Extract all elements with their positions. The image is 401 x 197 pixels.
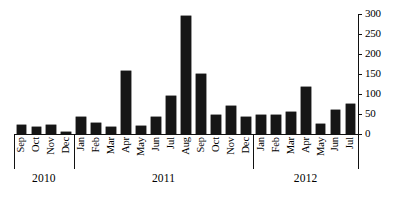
x-axis-tick-label: Sep xyxy=(16,137,27,152)
bar-slot xyxy=(313,14,328,134)
bar[interactable] xyxy=(121,71,131,134)
bar[interactable] xyxy=(136,126,146,134)
bar[interactable] xyxy=(106,127,116,134)
x-axis-tick-label: Jan xyxy=(76,137,87,151)
bar-slot xyxy=(238,14,253,134)
bar[interactable] xyxy=(91,123,101,134)
bar-slot xyxy=(119,14,134,134)
x-axis-tick-label: Apr xyxy=(300,137,311,153)
bar-slot xyxy=(14,14,29,134)
bar[interactable] xyxy=(181,16,191,134)
bar-slot xyxy=(89,14,104,134)
bar[interactable] xyxy=(331,110,341,134)
bar[interactable] xyxy=(166,96,176,134)
y-axis-tick xyxy=(358,74,362,75)
x-axis-group-label: 2011 xyxy=(152,172,175,184)
y-axis-tick xyxy=(358,114,362,115)
bar[interactable] xyxy=(32,127,42,134)
bar-slot xyxy=(59,14,74,134)
x-axis-tick-label: Oct xyxy=(211,137,222,152)
x-axis-tick-label: Jan xyxy=(255,137,266,151)
x-axis-tick-label: May xyxy=(136,137,147,156)
y-axis-tick-label: 150 xyxy=(365,68,381,79)
bar-slot xyxy=(328,14,343,134)
bar-chart: 050100150200250300 SepOctNovDecJanFebMar… xyxy=(0,0,401,197)
plot-area xyxy=(14,14,358,134)
x-tick-slot: Oct xyxy=(29,135,44,171)
x-tick-slot: May xyxy=(134,135,149,171)
x-tick-slot: Jul xyxy=(164,135,179,171)
x-axis-tick-label: Feb xyxy=(270,137,281,152)
x-axis-group-label: 2012 xyxy=(294,172,318,184)
bar[interactable] xyxy=(316,124,326,134)
x-axis-tick-label: Feb xyxy=(91,137,102,152)
x-axis-tick-label: Oct xyxy=(31,137,42,152)
x-tick-slot: Nov xyxy=(223,135,238,171)
x-axis-tick-label: Mar xyxy=(285,137,296,154)
bar[interactable] xyxy=(286,112,296,134)
bar[interactable] xyxy=(241,117,251,134)
x-axis-tick-label: Dec xyxy=(241,137,252,154)
y-axis-tick-label: 0 xyxy=(365,128,370,139)
y-axis-tick xyxy=(358,34,362,35)
bar[interactable] xyxy=(301,87,311,134)
x-axis-tick-labels: SepOctNovDecJanFebMarAprMayJunJulAugSepO… xyxy=(14,135,358,171)
x-axis-tick-label: Jul xyxy=(166,137,177,149)
x-tick-slot: Feb xyxy=(89,135,104,171)
x-axis-tick-label: Nov xyxy=(226,137,237,155)
x-tick-slot: Oct xyxy=(208,135,223,171)
x-axis-tick-label: Jul xyxy=(345,137,356,149)
x-tick-slot: Sep xyxy=(14,135,29,171)
x-tick-slot: Jul xyxy=(343,135,358,171)
x-tick-slot: Jan xyxy=(253,135,268,171)
x-axis-tick-label: May xyxy=(315,137,326,156)
x-axis-group-separator xyxy=(14,135,15,169)
x-axis-tick-label: Nov xyxy=(46,137,57,155)
bar[interactable] xyxy=(256,115,266,134)
x-tick-slot: Apr xyxy=(119,135,134,171)
x-tick-slot: Sep xyxy=(193,135,208,171)
bar[interactable] xyxy=(346,104,356,134)
y-axis-tick-label: 100 xyxy=(365,88,381,99)
x-axis-tick-label: Apr xyxy=(121,137,132,153)
y-axis-tick xyxy=(358,54,362,55)
bar-slot xyxy=(223,14,238,134)
x-tick-slot: Dec xyxy=(238,135,253,171)
bar[interactable] xyxy=(226,106,236,134)
bar-slot xyxy=(298,14,313,134)
bar-slot xyxy=(29,14,44,134)
bars-container xyxy=(14,14,358,134)
x-axis-group-separator xyxy=(253,135,254,169)
x-axis-tick-label: Jun xyxy=(330,137,341,151)
bar-slot xyxy=(104,14,119,134)
bar[interactable] xyxy=(211,115,221,134)
bar[interactable] xyxy=(17,125,27,134)
x-axis-group-label: 2010 xyxy=(32,172,56,184)
x-tick-slot: Aug xyxy=(178,135,193,171)
bar-slot xyxy=(44,14,59,134)
x-axis-tick-label: Aug xyxy=(181,137,192,155)
y-axis-tick-label: 200 xyxy=(365,48,381,59)
x-axis-tick-label: Jun xyxy=(151,137,162,151)
y-axis-tick xyxy=(358,14,362,15)
bar[interactable] xyxy=(196,74,206,134)
x-tick-slot: Jun xyxy=(328,135,343,171)
bar[interactable] xyxy=(271,115,281,134)
bar-slot xyxy=(74,14,89,134)
x-tick-slot: Jun xyxy=(149,135,164,171)
x-axis-tick-label: Sep xyxy=(196,137,207,152)
bar[interactable] xyxy=(46,125,56,134)
y-axis-tick-label: 300 xyxy=(365,8,381,19)
x-tick-slot: May xyxy=(313,135,328,171)
bar[interactable] xyxy=(151,117,161,134)
x-tick-slot: Feb xyxy=(268,135,283,171)
x-tick-slot: Apr xyxy=(298,135,313,171)
x-tick-slot: Mar xyxy=(283,135,298,171)
x-tick-slot: Nov xyxy=(44,135,59,171)
bar-slot xyxy=(343,14,358,134)
bar-slot xyxy=(268,14,283,134)
x-axis-tick-label: Mar xyxy=(106,137,117,154)
bar[interactable] xyxy=(76,117,86,134)
y-axis-tick xyxy=(358,94,362,95)
y-axis-tick-label: 50 xyxy=(365,108,376,119)
